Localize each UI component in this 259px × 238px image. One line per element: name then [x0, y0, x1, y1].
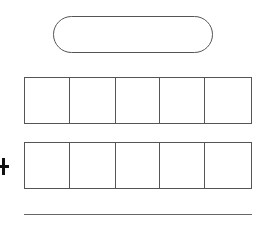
- addend-row-1: [24, 77, 252, 124]
- digit-box[interactable]: [70, 78, 116, 123]
- plus-icon: [0, 158, 11, 175]
- digit-box[interactable]: [160, 78, 205, 123]
- digit-box[interactable]: [205, 143, 251, 188]
- addend-row-2: [24, 142, 252, 189]
- plus-vertical-bar: [2, 158, 5, 175]
- digit-box[interactable]: [70, 143, 116, 188]
- digit-box[interactable]: [205, 78, 251, 123]
- answer-pill-box[interactable]: [53, 16, 213, 53]
- digit-box[interactable]: [116, 143, 160, 188]
- sum-underline: [24, 214, 252, 215]
- digit-box[interactable]: [25, 143, 70, 188]
- digit-box[interactable]: [116, 78, 160, 123]
- digit-box[interactable]: [160, 143, 205, 188]
- digit-box[interactable]: [25, 78, 70, 123]
